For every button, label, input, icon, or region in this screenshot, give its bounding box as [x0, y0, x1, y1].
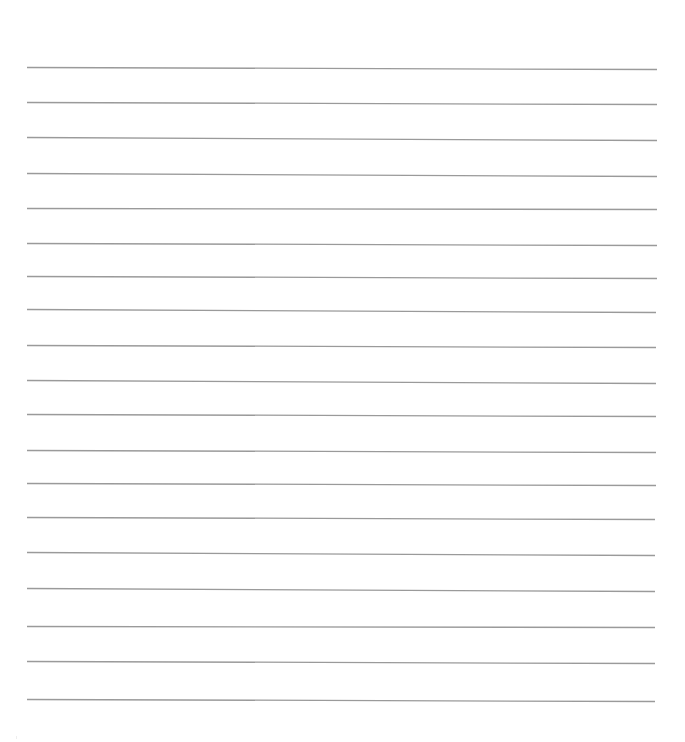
ruled-line-8 [27, 310, 656, 313]
ruled-line-5 [27, 209, 657, 210]
ruled-line-11 [27, 415, 656, 417]
ruled-line-14 [27, 518, 655, 520]
ruled-line-2 [27, 103, 657, 105]
ruled-line-15 [27, 553, 655, 556]
ruled-line-3 [27, 138, 657, 141]
ruled-lines [0, 0, 685, 742]
ruled-line-7 [27, 277, 657, 279]
ruled-line-17 [27, 627, 655, 628]
ruled-line-12 [27, 451, 656, 453]
ruled-line-1 [27, 68, 657, 70]
paper-speck [16, 736, 17, 739]
ruled-line-18 [27, 662, 655, 664]
ruled-line-16 [27, 589, 655, 592]
ruled-line-6 [27, 244, 657, 246]
lined-paper-sheet [0, 0, 685, 742]
ruled-line-4 [27, 174, 657, 177]
ruled-line-13 [27, 484, 656, 486]
ruled-line-9 [27, 346, 656, 348]
ruled-line-10 [27, 381, 656, 384]
ruled-line-19 [27, 700, 655, 702]
